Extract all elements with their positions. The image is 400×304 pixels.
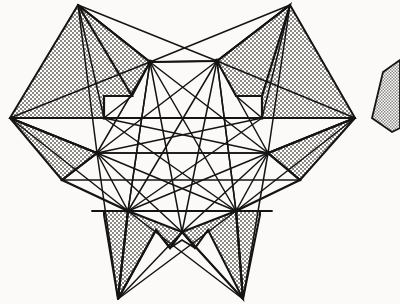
hub-dot-E	[126, 209, 131, 214]
hub-dot-H	[260, 116, 264, 120]
hub-dot-F	[234, 209, 239, 214]
hub-dot-B	[214, 58, 219, 63]
star-lattice-canvas	[0, 0, 400, 304]
hub-dot-C	[95, 151, 100, 156]
hub-dot-I	[180, 230, 184, 234]
hub-dot-D	[266, 151, 271, 156]
hub-dot-G	[102, 116, 106, 120]
hub-dot-A	[147, 59, 152, 64]
figure-root: Stippled star polygon with interior line…	[0, 0, 400, 304]
